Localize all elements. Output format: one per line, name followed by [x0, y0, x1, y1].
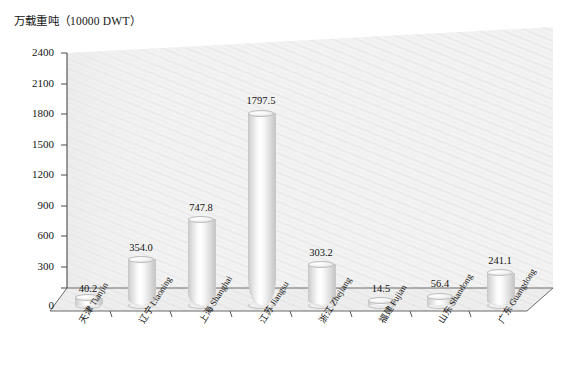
bar-chart: 万载重吨（10000 DWT） [0, 0, 571, 381]
bar-value-label: 303.2 [291, 248, 351, 259]
bar-cylinder-top [487, 269, 513, 276]
bar-cylinder-body [248, 113, 276, 305]
bar-value-label: 354.0 [111, 243, 171, 254]
bar-cylinder-top [248, 110, 274, 117]
bar-value-label: 747.8 [171, 203, 231, 214]
bar-cylinder-top [128, 256, 154, 263]
bar-cylinder-body [188, 219, 216, 305]
bar-value-label: 241.1 [470, 256, 530, 267]
bar-cylinder-top [188, 216, 214, 223]
bar-value-label: 1797.5 [231, 96, 291, 107]
bar-cylinder-top [308, 261, 334, 268]
